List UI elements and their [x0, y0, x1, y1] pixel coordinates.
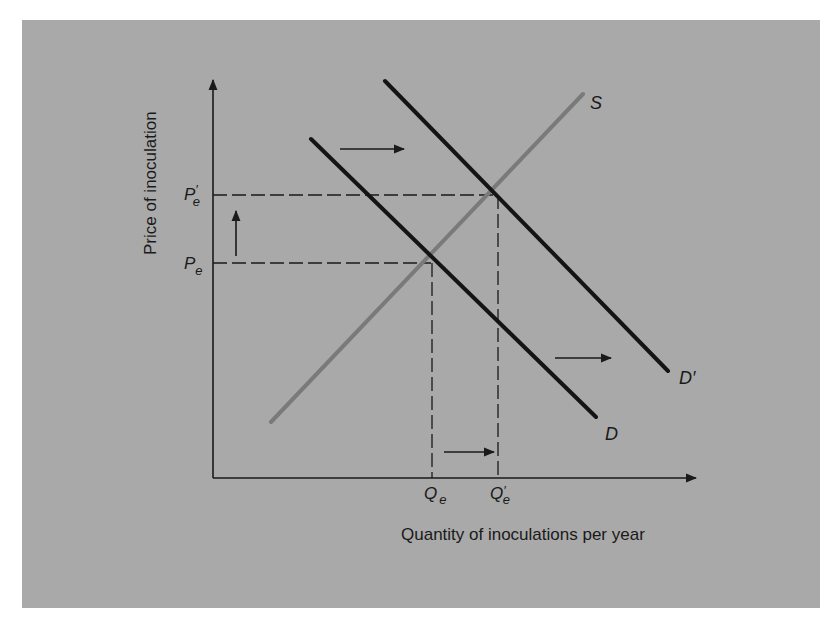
supply-demand-chart: S D D′ P′e Pe Qe Q′e Price of inoculatio…: [0, 0, 834, 624]
demand-shifted-label: D′: [679, 368, 696, 388]
supply-label: S: [590, 93, 602, 113]
price-pe-prime-label: P′e: [184, 182, 200, 209]
x-axis-title: Quantity of inoculations per year: [401, 525, 645, 544]
demand-curve: [311, 139, 596, 417]
quantity-qe-label: Qe: [424, 484, 446, 507]
quantity-qe-prime-label: Q′e: [490, 483, 510, 507]
demand-curve-shifted: [385, 81, 668, 371]
equilibrium-guides: [213, 195, 498, 478]
price-pe-label: Pe: [184, 254, 203, 278]
demand-label: D: [605, 424, 618, 444]
y-axis-title: Price of inoculation: [141, 111, 160, 255]
